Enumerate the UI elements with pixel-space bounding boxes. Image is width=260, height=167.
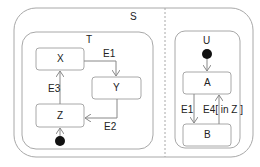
state-x-label: X <box>57 53 64 64</box>
transition-z-to-x-label: E3 <box>48 83 61 94</box>
transition-x-to-y-label: E1 <box>103 48 116 59</box>
state-y-label: Y <box>113 82 120 93</box>
state-a-label: A <box>204 77 211 88</box>
state-s-label: S <box>130 11 137 22</box>
transition-y-to-z-label: E2 <box>104 121 117 132</box>
state-a[interactable]: A <box>183 72 231 94</box>
state-b[interactable]: B <box>183 124 231 146</box>
transition-a-to-b-label: E1 <box>181 104 194 115</box>
state-y[interactable]: Y <box>92 77 141 99</box>
state-x[interactable]: X <box>36 48 84 70</box>
state-diagram-canvas: S T X Y Z E1 E2 E3 U A <box>0 0 260 167</box>
state-b-label: B <box>204 129 211 140</box>
initial-pseudostate-u <box>202 49 212 59</box>
transition-b-to-a-label: E4[ in Z ] <box>203 104 243 115</box>
state-z[interactable]: Z <box>36 104 84 127</box>
state-u-label: U <box>203 35 210 46</box>
state-t-label: T <box>86 34 92 45</box>
state-z-label: Z <box>57 110 63 121</box>
initial-pseudostate-t <box>55 136 65 146</box>
